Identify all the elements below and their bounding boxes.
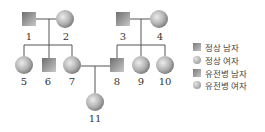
legend-label: 정상 여자: [205, 54, 239, 66]
label-1: 1: [26, 31, 32, 42]
individual-8-male: [110, 58, 124, 72]
individual-3-male: [116, 12, 130, 26]
individual-11-female: [86, 93, 104, 111]
label-10: 10: [159, 76, 172, 87]
individual-5-female: [15, 56, 33, 74]
circle-icon: [193, 81, 201, 89]
label-3: 3: [120, 31, 126, 42]
label-8: 8: [114, 76, 120, 87]
label-6: 6: [45, 76, 51, 87]
legend: 정상 남자 정상 여자 유전병 남자 유전병 여자: [193, 41, 265, 92]
legend-label: 유전병 남자: [205, 67, 247, 79]
label-7: 7: [69, 76, 75, 87]
label-2: 2: [63, 31, 69, 42]
label-4: 4: [157, 31, 163, 42]
label-9: 9: [138, 76, 144, 87]
legend-item-affected-male: 유전병 남자: [193, 66, 265, 79]
individual-10-female: [156, 56, 174, 74]
individual-2-female: [56, 10, 74, 28]
square-icon: [193, 43, 201, 51]
individual-4-female: [150, 10, 168, 28]
label-11: 11: [89, 113, 102, 124]
individual-9-female: [132, 56, 150, 74]
legend-item-normal-female: 정상 여자: [193, 54, 265, 67]
legend-label: 정상 남자: [205, 41, 239, 53]
label-5: 5: [21, 76, 27, 87]
individual-7-female: [63, 56, 81, 74]
individual-6-male: [42, 58, 56, 72]
legend-label: 유전병 여자: [205, 79, 247, 91]
circle-icon: [193, 56, 201, 64]
legend-item-affected-female: 유전병 여자: [193, 79, 265, 92]
square-icon: [193, 69, 201, 77]
individual-1-male: [22, 12, 36, 26]
legend-item-normal-male: 정상 남자: [193, 41, 265, 54]
